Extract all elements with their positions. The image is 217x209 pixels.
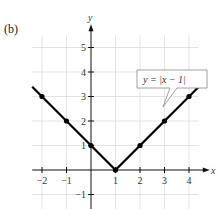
- y-tick-label: 4: [81, 67, 86, 78]
- x-tick-label: 2: [138, 175, 143, 186]
- x-tick-label: −2: [37, 175, 48, 186]
- panel-label: (b): [4, 22, 18, 36]
- x-axis-label: x: [210, 165, 216, 176]
- y-tick-label: −1: [75, 189, 86, 200]
- x-tick-label: 4: [187, 175, 192, 186]
- y-tick-label: 3: [81, 91, 86, 102]
- x-axis-arrow-icon: [203, 168, 210, 173]
- x-tick-label: 1: [113, 175, 118, 186]
- data-point: [39, 94, 44, 99]
- equation-label: y = |x − 1|: [142, 74, 186, 85]
- data-point: [113, 167, 118, 172]
- abs-value-graph: (b) yx −2−11234−112345 y = |x − 1|: [0, 0, 217, 209]
- x-tick-label: 3: [162, 175, 167, 186]
- data-point: [137, 143, 142, 148]
- y-tick-label: 2: [81, 116, 86, 127]
- data-point: [64, 118, 69, 123]
- data-point: [162, 118, 167, 123]
- y-tick-label: 5: [81, 42, 86, 53]
- data-point: [186, 94, 191, 99]
- y-tick-label: 1: [81, 140, 86, 151]
- data-point: [88, 143, 93, 148]
- y-axis-arrow-icon: [89, 24, 94, 31]
- x-tick-label: −1: [61, 175, 72, 186]
- y-axis-label: y: [87, 12, 93, 23]
